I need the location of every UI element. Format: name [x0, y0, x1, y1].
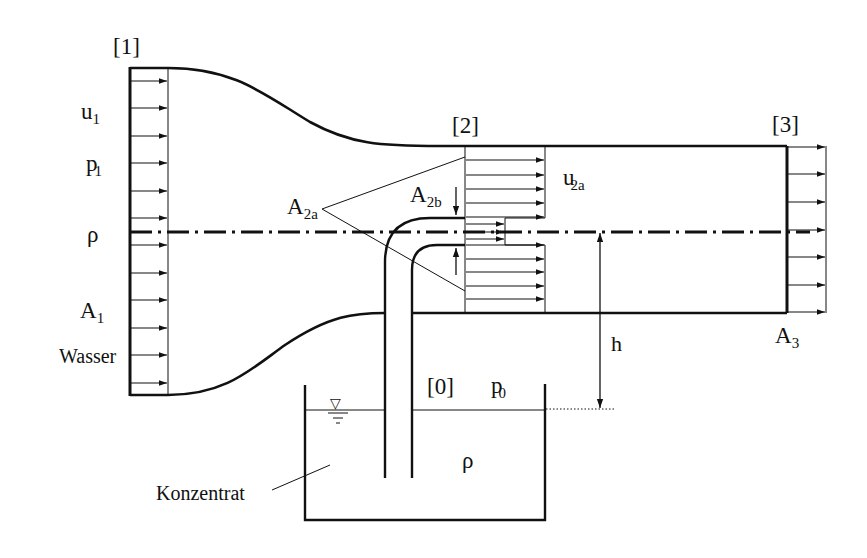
u2a-label: u2a: [563, 165, 585, 193]
water-level-icon: ▽: [330, 396, 341, 411]
A3-label: A3: [775, 323, 799, 351]
suction-pipe: [385, 218, 465, 478]
concentrate-tank: [272, 384, 545, 520]
section-1-label: [1]: [113, 34, 140, 59]
a2a-leaders: [322, 157, 465, 291]
outlet-velocity-profile: [788, 146, 826, 313]
h-label: h: [611, 331, 622, 356]
p1-label: p1: [86, 151, 102, 179]
section-0-label: [0]: [427, 374, 454, 399]
A2b-label: A2b: [410, 182, 442, 210]
A1-label: A1: [80, 298, 104, 326]
A2a-label: A2a: [287, 194, 318, 222]
mixing-velocity-profile: [465, 146, 545, 313]
height-dimension: [546, 233, 614, 409]
pipe-inner-wall: [412, 245, 465, 478]
wasser-label: Wasser: [59, 345, 117, 367]
p0-label: p0: [491, 373, 506, 401]
section-3-label: [3]: [772, 112, 799, 137]
jet-pump-diagram: [1] [2] [3] [0] u1 p1 ρ A1 Wasser A2a A2…: [0, 0, 867, 558]
konzentrat-leader: [272, 465, 330, 490]
rho-inlet-label: ρ: [87, 222, 98, 247]
rho-tank-label: ρ: [462, 448, 473, 473]
u1-label: u1: [81, 99, 100, 127]
konzentrat-label: Konzentrat: [156, 482, 245, 504]
section-2-label: [2]: [452, 113, 479, 138]
pipe-outer-wall: [385, 218, 465, 478]
